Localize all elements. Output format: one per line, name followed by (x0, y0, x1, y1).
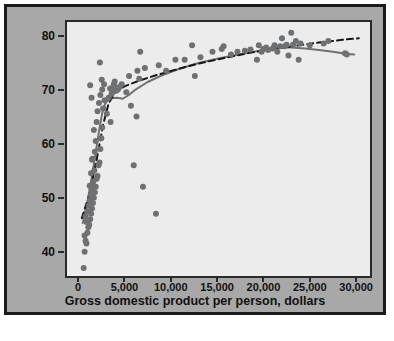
x-tick-label: 30,000 (339, 281, 373, 293)
data-point (153, 211, 159, 217)
data-point (96, 160, 102, 166)
data-point (209, 49, 215, 55)
data-point (272, 42, 278, 48)
figure-frame: Life expectancy, years 4050607080 05,000… (4, 4, 386, 315)
data-point (99, 77, 105, 83)
data-point (192, 73, 198, 79)
data-point (285, 53, 291, 59)
data-point (307, 42, 313, 48)
data-point (274, 49, 280, 55)
data-point (182, 57, 188, 63)
data-point (92, 189, 98, 195)
data-point (298, 41, 304, 47)
regression-dashed-line (82, 38, 359, 218)
data-point (259, 49, 265, 55)
data-point (89, 156, 95, 162)
data-point (325, 38, 331, 44)
data-point (242, 48, 248, 54)
data-point (134, 114, 140, 120)
data-point (82, 249, 88, 255)
data-point (163, 68, 169, 74)
data-point (91, 127, 97, 133)
data-point (172, 57, 178, 63)
data-point (134, 68, 140, 74)
data-point (86, 222, 92, 228)
data-point (228, 51, 234, 57)
data-point (126, 73, 132, 79)
data-point (99, 124, 105, 130)
data-point (112, 78, 118, 84)
data-point (137, 49, 143, 55)
data-point (123, 89, 129, 95)
data-point (344, 51, 350, 57)
x-tick-label: 25,000 (293, 281, 327, 293)
x-axis-title: Gross domestic product per person, dolla… (7, 294, 383, 308)
x-tick-label: 10,000 (154, 281, 188, 293)
data-point (91, 168, 97, 174)
data-point (100, 105, 106, 111)
data-points-group (81, 30, 350, 271)
plot-area[interactable] (65, 20, 372, 278)
data-point (136, 76, 142, 82)
data-point (235, 49, 241, 55)
smooth-fit-curve (83, 47, 355, 223)
data-point (95, 173, 101, 179)
data-point (95, 108, 101, 114)
data-point (247, 47, 253, 53)
data-point (99, 87, 105, 93)
x-tick-label: 0 (75, 281, 81, 293)
data-point (221, 43, 227, 49)
data-point (296, 57, 302, 63)
data-point (279, 35, 285, 41)
x-tick-label: 15,000 (200, 281, 234, 293)
data-point (197, 54, 203, 60)
data-point (93, 138, 99, 144)
data-point (90, 200, 96, 206)
data-point (89, 95, 95, 101)
data-point (93, 184, 99, 190)
data-point (119, 81, 125, 87)
x-tick-label: 5,000 (111, 281, 139, 293)
data-point (104, 111, 110, 117)
data-point (131, 162, 137, 168)
data-point (89, 205, 95, 211)
data-point (288, 30, 294, 36)
data-point (97, 92, 103, 98)
data-point (284, 42, 290, 48)
data-point (256, 42, 262, 48)
data-point (94, 119, 100, 125)
data-point (91, 195, 97, 201)
data-point (254, 57, 260, 63)
x-tick-label: 20,000 (247, 281, 281, 293)
data-point (108, 119, 114, 125)
data-point (96, 100, 102, 106)
data-point (88, 211, 94, 217)
data-point (87, 216, 93, 222)
data-point (97, 60, 103, 66)
data-point (82, 232, 88, 238)
data-point (83, 241, 89, 247)
data-point (98, 135, 104, 141)
data-point (128, 103, 134, 109)
data-point (92, 149, 98, 155)
scatter-plot-canvas (67, 22, 370, 276)
data-point (87, 82, 93, 88)
data-point (97, 146, 103, 152)
data-point (156, 62, 162, 68)
data-point (142, 65, 148, 71)
data-point (189, 42, 195, 48)
data-point (140, 184, 146, 190)
data-point (81, 265, 87, 271)
